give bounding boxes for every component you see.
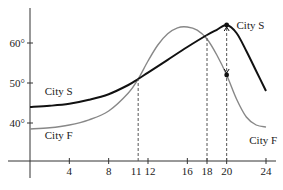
x-tick-label: 8 <box>106 165 112 177</box>
curve-labels: City SCity FCity SCity F <box>45 19 277 146</box>
x-tick-label: 20 <box>221 165 233 177</box>
temperature-chart: 40°50°60°48111216182024 City SCity FCity… <box>0 0 283 190</box>
x-tick-label: 16 <box>182 165 194 177</box>
series-lines <box>30 25 266 129</box>
curve-label-city-s: City S <box>237 19 265 31</box>
x-tick-label: 12 <box>145 165 156 177</box>
series-line-city-f <box>30 27 266 129</box>
x-tick-label: 11 <box>131 165 142 177</box>
y-tick-label: 50° <box>10 77 25 89</box>
x-tick-label: 18 <box>202 165 214 177</box>
y-tick-label: 60° <box>10 37 25 49</box>
x-tick-label: 4 <box>67 165 73 177</box>
curve-label-city-f: City F <box>45 129 73 141</box>
x-tick-label: 24 <box>261 165 273 177</box>
curve-label-city-s: City S <box>45 85 73 97</box>
curve-label-city-f: City F <box>249 134 277 146</box>
annotations <box>138 23 229 161</box>
y-tick-label: 40° <box>10 117 25 129</box>
